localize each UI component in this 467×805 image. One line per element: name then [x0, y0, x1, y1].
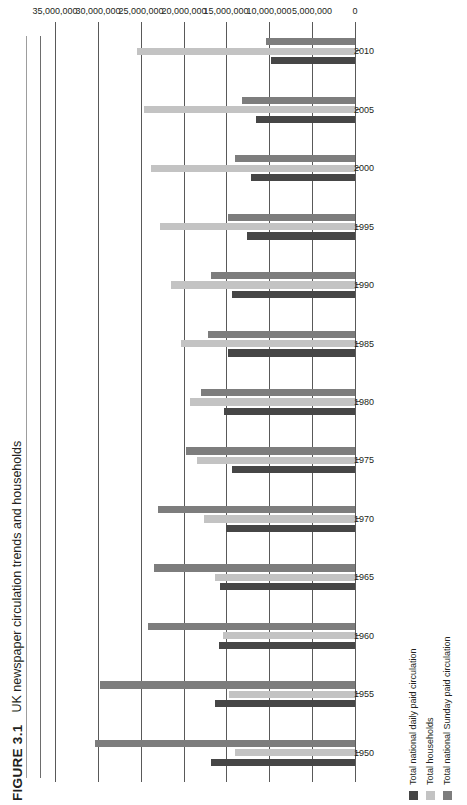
bar: [226, 525, 355, 532]
figure-title: UK newspaper circulation trends and hous…: [10, 441, 24, 713]
bar: [100, 681, 355, 688]
bar: [208, 331, 355, 338]
value-tick-label: 15,000,000: [204, 6, 249, 16]
category-label: 1960: [354, 631, 374, 641]
bar: [220, 583, 355, 590]
value-tick-label: 5,000,000: [292, 6, 332, 16]
bar: [197, 457, 355, 464]
legend-label-daily: Total national daily paid circulation: [408, 648, 418, 785]
category-label: 1980: [354, 397, 374, 407]
bar: [171, 282, 355, 289]
bar: [235, 155, 355, 162]
category-label: 2010: [354, 46, 374, 56]
category-label: 1995: [354, 222, 374, 232]
value-tick-label: 0: [352, 6, 357, 16]
bar: [151, 165, 355, 172]
legend-swatch-daily: [409, 791, 418, 800]
bar: [232, 466, 355, 473]
value-gridline: [184, 22, 185, 782]
bar: [224, 408, 355, 415]
category-label: 1955: [354, 689, 374, 699]
bar: [204, 515, 355, 522]
bar: [190, 398, 355, 405]
category-label: 1990: [354, 280, 374, 290]
value-gridline: [141, 22, 142, 782]
bar: [186, 447, 355, 454]
bar: [144, 106, 355, 113]
bar: [95, 740, 355, 747]
bar: [242, 97, 355, 104]
chart-area: 05,000,00010,000,00015,000,00020,000,000…: [55, 22, 407, 782]
bar: [266, 38, 355, 45]
figure-caption: FIGURE 3.1 UK newspaper circulation tren…: [0, 0, 34, 805]
bar: [201, 389, 355, 396]
value-gridline: [55, 22, 56, 782]
bar: [181, 340, 355, 347]
legend-label-sunday: Total national Sunday paid circulation: [442, 636, 452, 785]
category-label: 2000: [354, 163, 374, 173]
bar: [271, 57, 355, 64]
bar: [229, 691, 355, 698]
bar: [228, 349, 355, 356]
bar: [256, 116, 355, 123]
bar: [215, 574, 355, 581]
value-tick-label: 25,000,000: [118, 6, 163, 16]
bar: [247, 232, 355, 239]
bar: [211, 759, 355, 766]
value-gridline: [98, 22, 99, 782]
bar: [251, 174, 355, 181]
category-label: 1965: [354, 572, 374, 582]
legend-swatch-households: [426, 791, 435, 800]
value-tick-label: 35,000,000: [32, 6, 77, 16]
bar: [148, 623, 355, 630]
category-label: 1975: [354, 455, 374, 465]
bar: [228, 214, 355, 221]
legend-item: Total national Sunday paid circulation: [442, 480, 452, 800]
bar: [154, 564, 355, 571]
legend-item: Total national daily paid circulation: [408, 480, 418, 800]
bar: [232, 291, 355, 298]
legend-swatch-sunday: [443, 791, 452, 800]
category-label: 1950: [354, 748, 374, 758]
bar: [137, 48, 355, 55]
figure-number: FIGURE 3.1: [10, 724, 25, 801]
value-tick-label: 20,000,000: [161, 6, 206, 16]
category-label: 1970: [354, 514, 374, 524]
caption-divider-outer: [26, 36, 27, 778]
legend-label-households: Total households: [425, 717, 435, 785]
caption-divider-inner: [40, 36, 41, 778]
bar: [158, 506, 355, 513]
category-label: 1985: [354, 339, 374, 349]
bar: [219, 642, 355, 649]
value-tick-label: 30,000,000: [75, 6, 120, 16]
value-tick-label: 10,000,000: [247, 6, 292, 16]
legend-item: Total households: [425, 480, 435, 800]
bar: [215, 700, 355, 707]
bar: [235, 749, 355, 756]
bar: [223, 632, 355, 639]
bar: [211, 272, 355, 279]
bar: [160, 223, 355, 230]
chart-legend: Total national daily paid circulation To…: [408, 480, 466, 800]
bar-chart-plot: 05,000,00010,000,00015,000,00020,000,000…: [55, 22, 407, 782]
category-label: 2005: [354, 105, 374, 115]
